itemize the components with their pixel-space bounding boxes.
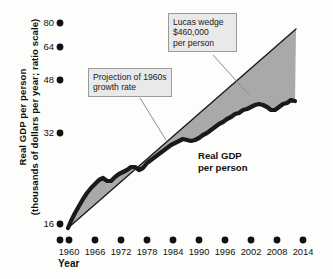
projection-leader-line: [140, 98, 166, 140]
ytick-dot-16: [57, 221, 64, 228]
annotation-projection-1960s: Projection of 1960s growth rate: [88, 68, 172, 97]
xtick-dot-2014: [300, 237, 307, 244]
xtick-dot-1996: [222, 237, 229, 244]
x-axis-title: Year: [58, 258, 80, 269]
ytick-dot-80: [57, 20, 64, 27]
xtick-dot-2002: [248, 237, 255, 244]
y-axis-title: Real GDP per person (thousands of dollar…: [17, 10, 49, 224]
xtick-dot-1990: [196, 237, 203, 244]
xtick-dot-1966: [92, 237, 99, 244]
annotation-real-gdp-series-label: Real GDP per person: [198, 150, 248, 173]
xtick-dot-1972: [118, 237, 125, 244]
projection-line: [68, 29, 296, 228]
xtick-label-2014: 2014: [288, 247, 318, 257]
annotation-lucas-wedge: Lucas wedge $460,000 per person: [168, 13, 237, 52]
ytick-dot-48: [57, 77, 64, 84]
ytick-dot-32: [57, 130, 64, 137]
xtick-dot-1960b: [66, 237, 73, 244]
xtick-dot-1978: [144, 237, 151, 244]
ytick-dot-64: [57, 44, 64, 51]
xtick-dot-2008: [274, 237, 281, 244]
real-gdp-line: [68, 100, 295, 228]
chart-figure: 80 64 48 32 16 1960 1966 1972 1978 1984 …: [0, 0, 333, 279]
xtick-dot-1960: [57, 237, 64, 244]
xtick-dot-1984: [170, 237, 177, 244]
